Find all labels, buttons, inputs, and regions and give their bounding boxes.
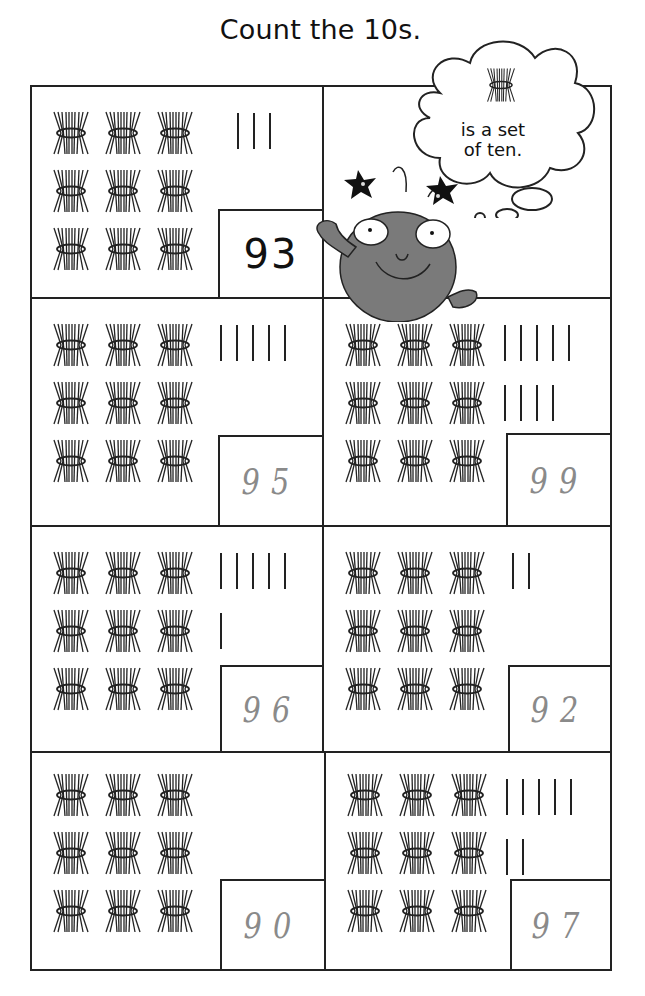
bundle-of-ten-icon: [156, 169, 194, 213]
ones-tallies: [220, 553, 315, 673]
tally-mark: [570, 779, 572, 815]
tens-bundles: [344, 323, 486, 483]
bundle-of-ten-icon: [344, 381, 382, 425]
answer-value: 93: [244, 231, 299, 277]
bundle-of-ten-icon: [104, 773, 142, 817]
tally-mark: [253, 113, 255, 149]
bundle-of-ten-icon: [448, 667, 486, 711]
bundle-of-ten-icon: [344, 609, 382, 653]
tally-mark: [268, 553, 270, 589]
tens-bundles: [52, 111, 194, 271]
bundle-of-ten-icon: [344, 439, 382, 483]
tally-mark: [252, 553, 254, 589]
tally-mark: [520, 325, 522, 361]
answer-box[interactable]: 99: [506, 433, 612, 527]
bundle-of-ten-icon: [104, 323, 142, 367]
bundle-of-ten-icon: [396, 381, 434, 425]
bundle-of-ten-icon: [104, 551, 142, 595]
bundle-of-ten-icon: [52, 381, 90, 425]
tally-mark: [506, 779, 508, 815]
bundle-of-ten-icon: [396, 667, 434, 711]
tally-mark: [284, 325, 286, 361]
bundle-of-ten-icon: [52, 889, 90, 933]
bundle-of-ten-icon: [52, 609, 90, 653]
bundle-of-ten-icon: [396, 551, 434, 595]
bundle-of-ten-icon: [448, 323, 486, 367]
mascot-bug-icon: [308, 162, 478, 322]
bundle-of-ten-icon: [156, 551, 194, 595]
bundle-of-ten-icon: [52, 111, 90, 155]
answer-box[interactable]: 97: [510, 879, 612, 971]
bundle-of-ten-icon: [156, 609, 194, 653]
bundle-of-ten-icon: [52, 773, 90, 817]
bundle-of-ten-icon: [104, 381, 142, 425]
tally-mark: [504, 325, 506, 361]
tally-mark: [269, 113, 271, 149]
ones-tallies: [220, 325, 315, 385]
tally-mark: [512, 553, 514, 589]
bundle-of-ten-icon: [396, 323, 434, 367]
tally-mark: [506, 839, 508, 875]
bundle-of-ten-icon: [156, 381, 194, 425]
bundle-of-ten-icon: [156, 667, 194, 711]
bundle-of-ten-icon: [346, 773, 384, 817]
answer-value: 97: [531, 905, 590, 946]
tally-mark: [536, 325, 538, 361]
bundle-of-ten-icon: [398, 831, 436, 875]
bundle-of-ten-icon: [448, 551, 486, 595]
bundle-of-ten-icon: [398, 773, 436, 817]
bundle-of-ten-icon: [52, 169, 90, 213]
bundle-of-ten-icon: [156, 227, 194, 271]
tens-bundles: [344, 551, 486, 711]
bundle-of-ten-icon: [156, 323, 194, 367]
answer-box[interactable]: 96: [220, 665, 324, 753]
answer-value: 96: [242, 689, 301, 730]
problem-cell-1: 93: [30, 85, 324, 299]
answer-value: 92: [530, 689, 589, 730]
problem-cell-4: 96: [30, 525, 324, 753]
bundle-of-ten-icon: [104, 831, 142, 875]
bundle-of-ten-icon: [156, 439, 194, 483]
tally-mark: [236, 553, 238, 589]
bundle-of-ten-icon: [104, 439, 142, 483]
ones-tallies: [504, 325, 599, 445]
tally-mark: [220, 553, 222, 589]
bundle-of-ten-icon: [448, 381, 486, 425]
bundle-of-ten-icon: [156, 831, 194, 875]
bundle-of-ten-icon: [104, 111, 142, 155]
tally-mark: [568, 325, 570, 361]
answer-box[interactable]: 95: [218, 435, 324, 527]
tally-mark: [220, 325, 222, 361]
bundle-of-ten-icon: [104, 667, 142, 711]
bundle-of-ten-icon: [52, 667, 90, 711]
problem-cell-5: 92: [322, 525, 612, 753]
bundle-of-ten-icon: [104, 169, 142, 213]
bundle-of-ten-icon: [486, 66, 516, 104]
bundle-of-ten-icon: [52, 551, 90, 595]
tally-mark: [268, 325, 270, 361]
hint-text: is a set of ten.: [428, 120, 558, 160]
bundle-of-ten-icon: [346, 831, 384, 875]
tally-mark: [528, 553, 530, 589]
answer-box[interactable]: 90: [220, 879, 326, 971]
bundle-of-ten-icon: [450, 773, 488, 817]
ones-tallies: [512, 553, 607, 613]
bundle-of-ten-icon: [52, 439, 90, 483]
bundle-of-ten-icon: [396, 609, 434, 653]
bundle-of-ten-icon: [104, 609, 142, 653]
answer-box[interactable]: 92: [508, 665, 612, 753]
tally-mark: [522, 839, 524, 875]
tally-mark: [554, 779, 556, 815]
tally-mark: [538, 779, 540, 815]
bundle-of-ten-icon: [450, 831, 488, 875]
tally-mark: [236, 325, 238, 361]
tens-bundles: [346, 773, 488, 933]
tens-bundles: [52, 323, 194, 483]
tally-mark: [552, 385, 554, 421]
bundle-of-ten-icon: [52, 323, 90, 367]
tens-bundles: [52, 773, 194, 933]
bundle-of-ten-icon: [344, 551, 382, 595]
tally-mark: [237, 113, 239, 149]
bundle-of-ten-icon: [104, 227, 142, 271]
bundle-of-ten-icon: [52, 831, 90, 875]
